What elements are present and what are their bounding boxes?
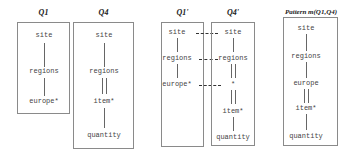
edge-descendant bbox=[304, 89, 305, 103]
edge-descendant bbox=[235, 64, 236, 78]
edge-descendant bbox=[308, 89, 309, 103]
node-europe: europe* bbox=[162, 80, 191, 88]
edge-child bbox=[44, 43, 45, 67]
panel-title-pattern: Pattern m(Q1,Q4) bbox=[278, 8, 344, 16]
edge-child bbox=[44, 78, 45, 96]
node-item: item* bbox=[295, 104, 316, 112]
node-site: site bbox=[96, 31, 113, 39]
node-item: item* bbox=[93, 97, 114, 105]
node-site: site bbox=[169, 28, 186, 36]
edge-child bbox=[104, 43, 105, 67]
node-quantity: quantity bbox=[87, 131, 121, 139]
node-wildcard: * bbox=[231, 80, 235, 88]
edge-descendant bbox=[231, 90, 232, 104]
edge-descendant bbox=[102, 78, 103, 94]
panel-title-q4: Q4 bbox=[73, 8, 134, 17]
node-site: site bbox=[36, 31, 53, 39]
edge-child bbox=[233, 38, 234, 52]
node-europe: europe* bbox=[29, 97, 58, 105]
node-regions: regions bbox=[291, 52, 320, 60]
edge-child bbox=[233, 117, 234, 131]
node-regions: regions bbox=[218, 54, 247, 62]
panel-title-q4-prime: Q4' bbox=[211, 8, 255, 17]
node-europe: europe bbox=[293, 79, 318, 87]
edge-child bbox=[177, 38, 178, 52]
edge-child bbox=[306, 114, 307, 130]
edge-child bbox=[306, 34, 307, 51]
node-regions: regions bbox=[29, 67, 58, 75]
node-regions: regions bbox=[162, 54, 191, 62]
node-regions: regions bbox=[89, 67, 118, 75]
node-site: site bbox=[298, 24, 315, 32]
edge-child bbox=[177, 64, 178, 78]
panel-title-q1-prime: Q1' bbox=[161, 8, 204, 17]
edge-descendant bbox=[231, 64, 232, 78]
panel-q4 bbox=[73, 22, 134, 149]
edge-child bbox=[306, 62, 307, 78]
edge-descendant bbox=[235, 90, 236, 104]
edge-child bbox=[104, 108, 105, 128]
node-quantity: quantity bbox=[216, 133, 250, 141]
node-item: item* bbox=[222, 107, 243, 115]
edge-descendant bbox=[106, 78, 107, 94]
panel-title-q1: Q1 bbox=[17, 8, 70, 17]
node-quantity: quantity bbox=[289, 132, 323, 140]
node-site: site bbox=[225, 28, 242, 36]
